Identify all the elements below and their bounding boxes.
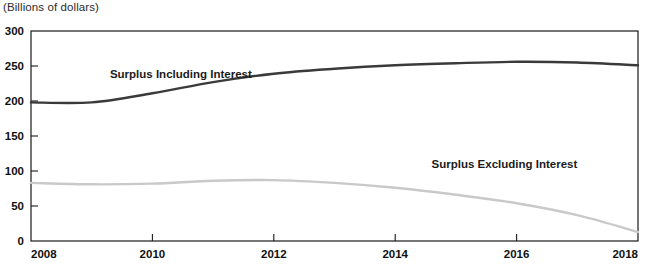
x-tick-label: 2010: [140, 248, 166, 260]
x-tick-label: 2018: [612, 248, 638, 260]
x-tick-label: 2008: [31, 248, 57, 260]
y-tick-label: 300: [5, 25, 24, 37]
x-tick-label: 2012: [261, 248, 287, 260]
x-tick-label: 2014: [382, 248, 408, 260]
y-tick-label: 50: [11, 200, 24, 212]
series-label: Surplus Including Interest: [110, 68, 252, 80]
chart-figure: (Billions of dollars) 050100150200250300…: [0, 0, 654, 278]
y-tick-label: 100: [5, 165, 24, 177]
y-tick-label: 150: [5, 130, 24, 142]
series-label: Surplus Excluding Interest: [432, 158, 578, 170]
x-axis-tick-labels: 200820102012201420162018: [31, 248, 639, 260]
y-tick-label: 0: [18, 235, 24, 247]
y-tick-label: 200: [5, 95, 24, 107]
line-chart-svg: 050100150200250300 200820102012201420162…: [0, 0, 654, 278]
x-tick-label: 2016: [504, 248, 530, 260]
y-axis-tick-labels: 050100150200250300: [5, 25, 24, 247]
y-tick-label: 250: [5, 60, 24, 72]
